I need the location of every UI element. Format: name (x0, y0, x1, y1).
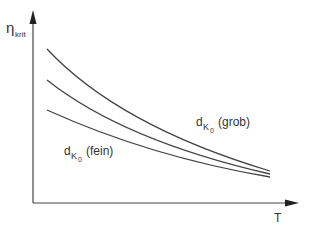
label-fein: d K 0 (fein) (64, 144, 113, 163)
svg-text:d: d (196, 115, 203, 129)
y-axis-arrow-icon (30, 10, 37, 24)
chart: η krit T d K 0 (grob) d K 0 (fein) (0, 0, 310, 229)
y-axis-label: η (6, 19, 14, 36)
svg-text:(fein): (fein) (86, 144, 113, 158)
curve-upper (47, 49, 270, 171)
x-axis-label: T (274, 211, 282, 225)
label-grob: d K 0 (grob) (196, 115, 250, 134)
svg-text:d: d (64, 144, 71, 158)
svg-text:(grob): (grob) (218, 115, 250, 129)
svg-text:K: K (203, 122, 209, 132)
x-axis-arrow-icon (285, 200, 299, 207)
svg-text:0: 0 (210, 127, 214, 134)
svg-text:K: K (71, 151, 77, 161)
y-axis-label-sub: krit (15, 30, 26, 39)
svg-text:0: 0 (78, 156, 82, 163)
